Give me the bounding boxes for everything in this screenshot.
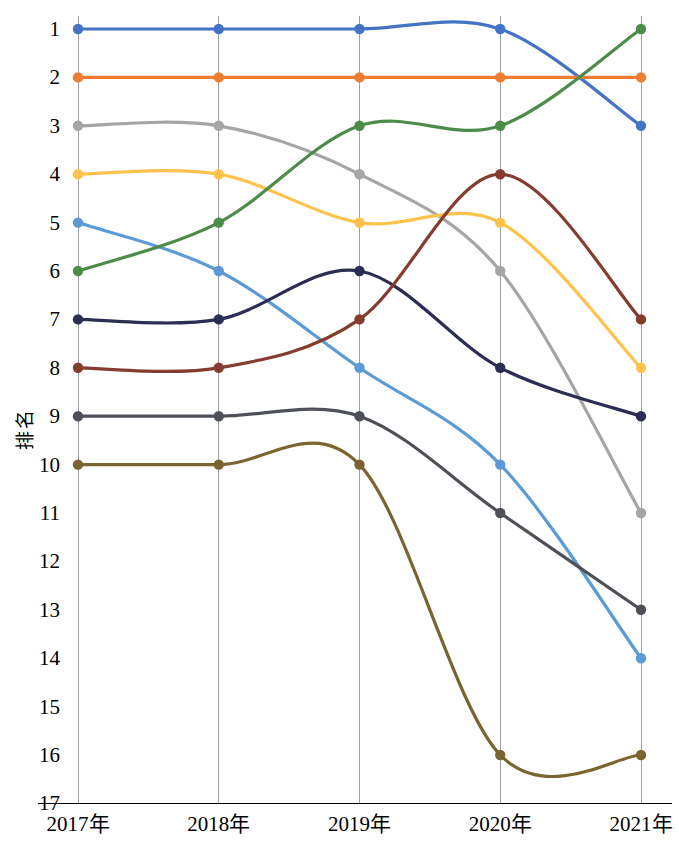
data-point-marker [495, 217, 505, 227]
data-point-marker [495, 169, 505, 179]
y-tick-label: 13 [0, 599, 60, 620]
y-tick-label: 16 [0, 745, 60, 766]
y-tick-label: 15 [0, 696, 60, 717]
data-point-marker [636, 750, 646, 760]
data-point-marker [636, 363, 646, 373]
data-point-marker [73, 169, 83, 179]
data-point-marker [636, 72, 646, 82]
x-tick-label: 2020年 [469, 814, 532, 835]
data-point-marker [636, 508, 646, 518]
data-point-marker [354, 169, 364, 179]
data-point-marker [73, 24, 83, 34]
data-point-marker [214, 266, 224, 276]
data-point-marker [354, 266, 364, 276]
data-point-marker [214, 72, 224, 82]
data-point-marker [354, 217, 364, 227]
y-tick-label: 2 [0, 67, 60, 88]
plot-area [0, 0, 679, 858]
data-point-marker [73, 121, 83, 131]
data-point-marker [214, 411, 224, 421]
data-point-marker [73, 72, 83, 82]
data-point-marker [214, 363, 224, 373]
data-point-marker [73, 411, 83, 421]
data-point-marker [636, 24, 646, 34]
x-tick-label: 2021年 [610, 814, 673, 835]
x-tick-label: 2019年 [328, 814, 391, 835]
data-point-marker [636, 121, 646, 131]
data-point-marker [354, 121, 364, 131]
y-tick-label: 1 [0, 19, 60, 40]
data-point-marker [636, 411, 646, 421]
data-point-marker [495, 72, 505, 82]
y-tick-label: 9 [0, 406, 60, 427]
y-tick-label: 14 [0, 648, 60, 669]
data-point-marker [354, 24, 364, 34]
y-tick-label: 11 [0, 503, 60, 524]
data-point-marker [73, 363, 83, 373]
data-point-marker [214, 121, 224, 131]
y-tick-label: 12 [0, 551, 60, 572]
data-point-marker [73, 314, 83, 324]
y-tick-label: 5 [0, 212, 60, 233]
data-point-marker [636, 314, 646, 324]
y-tick-label: 7 [0, 309, 60, 330]
data-point-marker [495, 459, 505, 469]
data-point-marker [214, 169, 224, 179]
y-tick-label: 8 [0, 357, 60, 378]
data-point-marker [354, 363, 364, 373]
data-point-marker [495, 363, 505, 373]
data-point-marker [354, 411, 364, 421]
y-tick-label: 4 [0, 164, 60, 185]
data-point-marker [495, 24, 505, 34]
data-point-marker [214, 459, 224, 469]
data-point-marker [495, 121, 505, 131]
y-tick-label: 10 [0, 454, 60, 475]
data-point-marker [354, 459, 364, 469]
series-series-2 [73, 72, 646, 82]
data-point-marker [495, 750, 505, 760]
data-point-marker [636, 653, 646, 663]
data-point-marker [214, 314, 224, 324]
data-point-marker [214, 217, 224, 227]
rank-line-chart: 排名 1234567891011121314151617 2017年2018年2… [0, 0, 679, 858]
data-point-marker [354, 314, 364, 324]
x-tick-label: 2017年 [47, 814, 110, 835]
y-tick-label: 3 [0, 115, 60, 136]
data-point-marker [73, 266, 83, 276]
y-tick-label: 17 [0, 793, 60, 814]
data-point-marker [636, 605, 646, 615]
data-point-marker [354, 72, 364, 82]
data-point-marker [495, 508, 505, 518]
data-point-marker [73, 459, 83, 469]
y-tick-label: 6 [0, 261, 60, 282]
data-point-marker [495, 266, 505, 276]
x-tick-label: 2018年 [187, 814, 250, 835]
data-point-marker [214, 24, 224, 34]
data-point-marker [73, 217, 83, 227]
